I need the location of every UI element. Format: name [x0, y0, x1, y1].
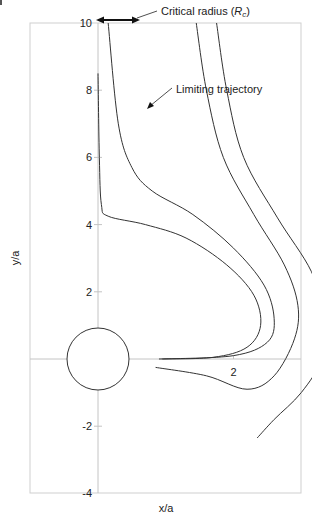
- critical-radius-label: Critical radius (Rc): [161, 5, 250, 19]
- limiting-trajectory-arrow: [147, 88, 172, 109]
- collector-sphere: [67, 328, 129, 390]
- trajectory-chart: -2246108642-2-4 Critical radius (Rc) Lim…: [0, 0, 312, 521]
- critical-radius-arrow: [96, 11, 157, 24]
- x-tick-label: 2: [230, 366, 236, 378]
- trajectory-1-line: [98, 73, 261, 359]
- y-tick-label: 10: [80, 17, 92, 29]
- x-axis-title: x/a: [159, 502, 175, 514]
- y-tick-label: -2: [82, 420, 92, 432]
- tick-group: -2246108642-2-4: [0, 17, 312, 499]
- y-tick-label: 8: [86, 84, 92, 96]
- y-tick-label: 4: [86, 219, 92, 231]
- trajectory-2-line: [108, 23, 274, 359]
- y-axis-title: y/a: [9, 250, 21, 266]
- y-tick-label: 2: [86, 286, 92, 298]
- limiting-trajectory-line: [156, 23, 299, 389]
- limiting-trajectory-label: Limiting trajectory: [176, 83, 263, 95]
- y-tick-label: -4: [82, 487, 92, 499]
- y-tick-label: 6: [86, 151, 92, 163]
